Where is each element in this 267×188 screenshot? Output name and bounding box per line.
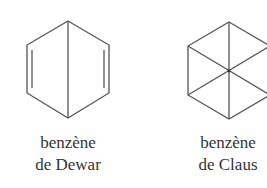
claus-benzene-structure (188, 22, 267, 119)
claus-label-line1: benzène (178, 132, 267, 154)
dewar-label: benzène de Dewar (18, 132, 118, 176)
dewar-label-line1: benzène (18, 132, 118, 154)
claus-hexagon (188, 22, 267, 119)
dewar-label-line2: de Dewar (18, 154, 118, 176)
claus-label: benzène de Claus (178, 132, 267, 176)
dewar-benzene-structure (27, 21, 109, 118)
claus-label-line2: de Claus (178, 154, 267, 176)
claus-center-point (228, 70, 231, 73)
